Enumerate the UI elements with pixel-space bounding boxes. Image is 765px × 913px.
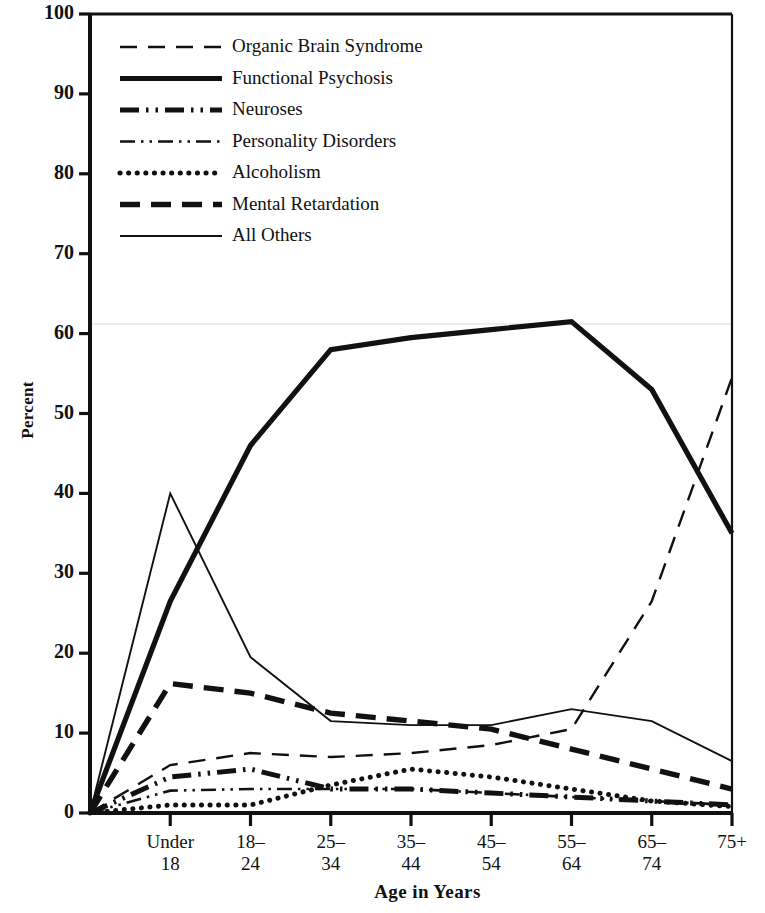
series-line-organic-brain-syndrome (90, 378, 732, 813)
series-line-functional-psychosis (90, 322, 732, 813)
chart-figure: Percent 1009080706050403020100 Under1818… (0, 0, 765, 913)
series-line-mental-retardation (90, 684, 732, 813)
plot-area (0, 0, 765, 913)
